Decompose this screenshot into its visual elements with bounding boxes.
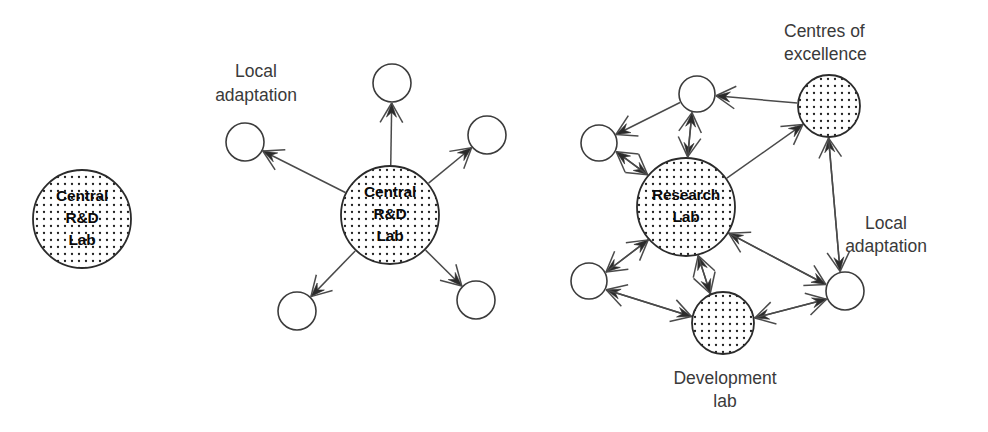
caption-line: Development xyxy=(673,368,776,388)
node-circle-outline xyxy=(226,123,264,161)
edge-p3-centres-to-p3-top xyxy=(716,86,797,109)
arrow-barb xyxy=(693,256,698,278)
edge-p2-central-to-p2-left xyxy=(263,150,345,193)
edge-line xyxy=(263,151,345,193)
edge-line xyxy=(755,299,827,318)
node-p2-left xyxy=(226,123,264,161)
caption-line: Local xyxy=(865,213,907,233)
node-circle-outline xyxy=(571,263,607,299)
node-label-line: Lab xyxy=(673,208,700,225)
caption-line: adaptation xyxy=(215,85,297,105)
caption-line: excellence xyxy=(784,44,867,64)
node-p3-lu xyxy=(581,125,617,161)
node-label-line: R&D xyxy=(374,205,407,222)
rd-organisation-diagram: CentralR&DLabCentralR&DLabResearchLab Lo… xyxy=(0,0,988,432)
node-label-line: Lab xyxy=(69,231,96,248)
arrowhead xyxy=(616,124,631,135)
arrow-barb xyxy=(606,285,628,290)
caption-p2-caption-local: Localadaptation xyxy=(215,61,297,105)
caption-line: Local xyxy=(235,61,277,81)
caption-line: adaptation xyxy=(845,236,927,256)
node-p3-right xyxy=(826,272,864,310)
node-p2-central: CentralR&DLab xyxy=(341,166,439,264)
node-circle-outline xyxy=(679,76,715,112)
node-p1-central: CentralR&DLab xyxy=(33,170,131,268)
arrow-barb xyxy=(263,150,285,151)
edge-p3-top-to-p3-lu xyxy=(616,103,680,136)
nodes-layer: CentralR&DLabCentralR&DLabResearchLab xyxy=(33,64,864,354)
diagram-page: CentralR&DLabCentralR&DLabResearchLab Lo… xyxy=(0,0,988,432)
edge-line xyxy=(829,138,841,271)
caption-p3-caption-centres: Centres ofexcellence xyxy=(784,21,867,64)
edge-p3-ll-to-p3-devlab xyxy=(606,290,691,322)
arrowhead xyxy=(263,151,278,162)
arrow-barb xyxy=(729,232,751,233)
arrow-barb xyxy=(803,284,825,285)
node-label-line: R&D xyxy=(66,209,99,226)
node-p3-research: ResearchLab xyxy=(637,158,735,256)
node-circle-outline xyxy=(581,125,617,161)
node-label-line: Central xyxy=(364,183,416,200)
caption-line: lab xyxy=(713,391,736,411)
node-circle-filled xyxy=(637,158,735,256)
edge-p2-central-to-p2-bl xyxy=(311,251,355,297)
arrowhead xyxy=(811,273,826,284)
node-p2-top xyxy=(373,64,411,102)
node-circle-filled xyxy=(692,292,754,354)
edge-p3-devlab-to-p3-right xyxy=(755,293,827,318)
node-circle-filled xyxy=(798,75,860,137)
node-circle-outline xyxy=(373,64,411,102)
caption-p3-caption-devlab: Developmentlab xyxy=(673,368,776,411)
node-circle-outline xyxy=(468,116,506,154)
node-p2-bl xyxy=(278,292,316,330)
arrow-barb xyxy=(710,272,715,294)
node-p3-centres xyxy=(798,75,860,137)
caption-line: Centres of xyxy=(784,21,865,41)
node-p2-right xyxy=(468,116,506,154)
edge-line xyxy=(716,96,797,103)
node-p3-top xyxy=(679,76,715,112)
node-label-line: Lab xyxy=(377,227,404,244)
node-p2-br xyxy=(457,281,495,319)
edge-p2-central-to-p2-right xyxy=(429,148,472,183)
edge-p2-central-to-p2-top xyxy=(380,103,403,165)
edge-p3-right-to-p3-devlab xyxy=(755,299,827,324)
arrow-barb xyxy=(616,135,638,136)
arrow-barb xyxy=(670,316,692,321)
node-p3-devlab xyxy=(692,292,754,354)
edge-p3-research-to-p3-right xyxy=(729,233,826,285)
node-circle-outline xyxy=(826,272,864,310)
node-label-line: Central xyxy=(56,187,108,204)
edge-p3-research-to-p3-centres xyxy=(727,124,803,178)
node-circle-outline xyxy=(278,292,316,330)
caption-p3-caption-local: Localadaptation xyxy=(845,213,927,256)
node-label-line: Research xyxy=(652,186,720,203)
edge-p2-central-to-p2-br xyxy=(426,250,462,286)
node-circle-outline xyxy=(457,281,495,319)
node-p3-ll xyxy=(571,263,607,299)
edge-line xyxy=(727,124,803,178)
edge-line xyxy=(729,233,826,284)
